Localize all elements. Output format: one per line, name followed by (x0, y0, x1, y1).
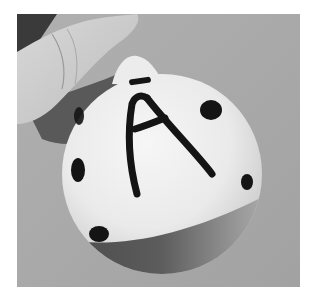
polka-dot (71, 158, 85, 182)
polka-dot (89, 226, 109, 242)
polka-dot (74, 107, 84, 125)
polka-dot (241, 174, 253, 190)
polka-dot (200, 100, 222, 120)
ornament-illustration (17, 14, 300, 287)
ornament-photo (17, 14, 300, 287)
